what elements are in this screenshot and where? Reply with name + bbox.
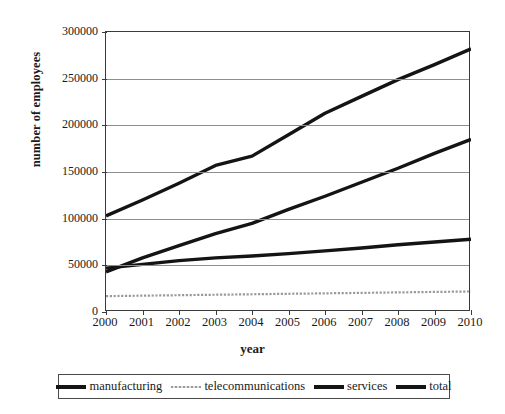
legend-label: total: [429, 379, 451, 394]
plot-lines: [106, 32, 469, 310]
thick-line-swatch: [396, 381, 426, 392]
y-tick-mark: [102, 125, 107, 126]
legend-label: services: [347, 379, 387, 394]
legend-item-total[interactable]: total: [396, 379, 451, 394]
chart-figure: number of employees 05000010000015000020…: [0, 0, 505, 414]
thick-line-swatch: [56, 381, 86, 392]
thick-line-swatch: [314, 381, 344, 392]
y-tick-mark: [102, 219, 107, 220]
gridline: [106, 125, 469, 126]
y-tick-mark: [102, 79, 107, 80]
x-axis-tick-labels: 2000200120022003200420052006200720082009…: [105, 315, 470, 337]
series-line-telecommunications: [106, 291, 471, 296]
y-tick-label: 250000: [40, 73, 98, 83]
x-tick-label: 2010: [447, 315, 493, 330]
y-tick-label: 200000: [40, 119, 98, 129]
y-tick-label: 100000: [40, 213, 98, 223]
y-tick-label: 50000: [40, 259, 98, 269]
x-axis-title: year: [0, 341, 505, 357]
y-tick-mark: [102, 172, 107, 173]
y-tick-mark: [102, 32, 107, 33]
gridline: [106, 172, 469, 173]
series-line-services: [106, 239, 471, 268]
series-line-total: [106, 49, 471, 216]
gridline: [106, 265, 469, 266]
thin-dotted-line-swatch: [171, 381, 201, 392]
chart-legend: manufacturingtelecommunicationsservicest…: [58, 374, 450, 399]
legend-item-manufacturing[interactable]: manufacturing: [56, 379, 162, 394]
y-tick-label: 150000: [40, 166, 98, 176]
gridline: [106, 219, 469, 220]
y-tick-label: 300000: [40, 26, 98, 36]
legend-item-telecommunications[interactable]: telecommunications: [171, 379, 305, 394]
y-tick-mark: [102, 265, 107, 266]
gridline: [106, 79, 469, 80]
legend-item-services[interactable]: services: [314, 379, 387, 394]
legend-label: manufacturing: [89, 379, 162, 394]
plot-area: [105, 31, 470, 311]
legend-label: telecommunications: [204, 379, 305, 394]
